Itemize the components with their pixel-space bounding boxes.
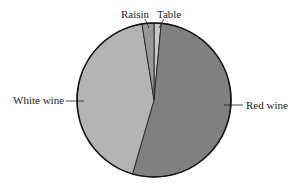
pie-chart: Raisin Table White wine Red wine [0,0,302,188]
label-white-wine: White wine [13,94,64,106]
pie-slices [77,23,231,177]
label-raisin: Raisin [121,8,150,20]
label-red-wine: Red wine [246,99,288,111]
label-table: Table [157,8,181,20]
